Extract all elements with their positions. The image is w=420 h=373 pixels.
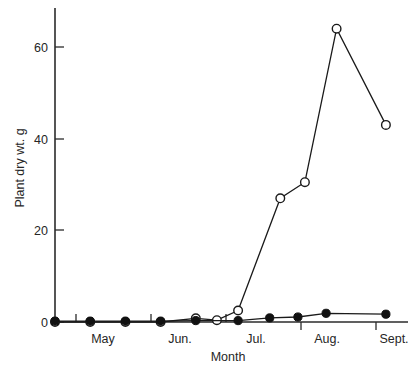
y-axis-title: Plant dry wt. g [13,128,27,207]
data-point [382,121,391,130]
data-point [234,306,243,315]
series-layer [51,24,391,326]
data-point [266,314,274,322]
y-tick-label-0: 0 [41,316,48,330]
data-point [234,317,242,325]
data-point [192,317,200,325]
data-point [121,317,129,325]
data-point [294,313,302,321]
y-tick-label-20: 20 [34,224,48,238]
chart-figure: 0 20 40 60 Plant dry wt. g May Jun. Jul.… [0,0,420,373]
x-tick-label-sept: Sept. [379,332,408,346]
data-point [382,310,390,318]
data-point [157,317,165,325]
y-tick-label-40: 40 [34,133,48,147]
data-point [276,194,285,203]
y-tick-label-60: 60 [34,41,48,55]
x-tick-label-aug: Aug. [314,332,340,346]
data-point [332,24,341,33]
y-axis-ticks [55,47,64,322]
x-tick-label-jun: Jun. [168,332,192,346]
series-line-open-circle-series [55,29,386,322]
data-point [86,317,94,325]
x-tick-label-jul: Jul. [246,332,265,346]
data-point [322,309,330,317]
data-point [301,178,310,187]
line-chart-svg: 0 20 40 60 Plant dry wt. g May Jun. Jul.… [0,0,420,373]
data-point [51,317,59,325]
x-tick-label-may: May [91,332,115,346]
x-axis-title: Month [211,350,246,364]
